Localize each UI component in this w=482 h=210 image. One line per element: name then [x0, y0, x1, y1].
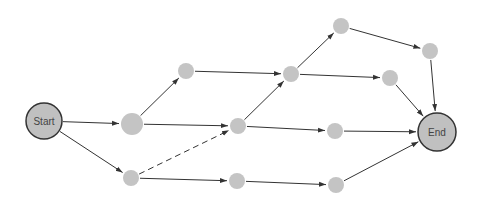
node-circle [229, 173, 245, 189]
node [283, 66, 299, 82]
edge-start-to-n2 [60, 131, 123, 172]
node-circle [230, 118, 246, 134]
edge-n6-to-n10 [300, 74, 380, 77]
node [382, 70, 398, 86]
node-circle [382, 70, 398, 86]
edge-n8-to-end [344, 131, 416, 132]
edge-n11-to-end [431, 60, 435, 111]
node [229, 173, 245, 189]
node-end: End [418, 113, 456, 151]
node [121, 113, 143, 135]
node-start: Start [26, 103, 62, 139]
edge-n7-to-n11 [350, 28, 421, 48]
node-circle [422, 43, 438, 59]
edge-n10-to-end [396, 85, 423, 116]
edge-start-to-n1 [63, 122, 119, 124]
edge-n2-to-n5 [140, 178, 227, 180]
node-circle [123, 170, 139, 186]
edges-layer [60, 28, 435, 184]
node [333, 18, 349, 34]
edge-n4-to-n8 [247, 126, 325, 130]
network-diagram: StartEnd [0, 0, 482, 210]
node [327, 123, 343, 139]
node-circle [283, 66, 299, 82]
edge-n2-to-n4 [139, 130, 229, 174]
nodes-layer: StartEnd [26, 18, 456, 193]
node-circle [178, 63, 194, 79]
edge-n3-to-n6 [195, 71, 281, 73]
edge-n5-to-n9 [246, 181, 326, 184]
edge-n9-to-end [344, 142, 418, 181]
node-circle [121, 113, 143, 135]
node [328, 177, 344, 193]
diagram-svg: StartEnd [0, 0, 482, 210]
node-circle [327, 123, 343, 139]
edge-n1-to-n3 [141, 78, 179, 116]
node [230, 118, 246, 134]
node [123, 170, 139, 186]
edge-n6-to-n7 [297, 33, 333, 68]
node-circle [328, 177, 344, 193]
node-circle [333, 18, 349, 34]
node [178, 63, 194, 79]
edge-n4-to-n6 [244, 81, 283, 120]
node-label: End [428, 127, 446, 138]
node [422, 43, 438, 59]
node-label: Start [33, 116, 54, 127]
edge-n1-to-n4 [144, 124, 228, 126]
